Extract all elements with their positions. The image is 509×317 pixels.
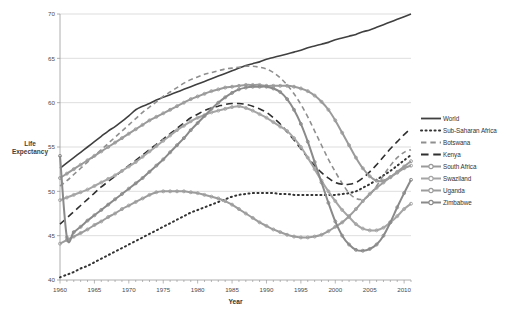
- legend-key-icon: [420, 125, 442, 136]
- x-axis-tick-label: 1980: [191, 286, 205, 293]
- series-line: [60, 155, 411, 277]
- legend-item-label: Swaziland: [442, 175, 471, 182]
- legend-key-icon: [420, 185, 442, 196]
- legend-item-label: Kenya: [442, 151, 461, 158]
- x-axis-tick-label: 2000: [328, 286, 342, 293]
- y-axis-tick-label: 40: [48, 276, 55, 283]
- legend-item-uganda[interactable]: Uganda: [420, 185, 509, 197]
- x-axis-tick-label: 1975: [156, 286, 170, 293]
- legend-item-kenya[interactable]: Kenya: [420, 148, 509, 160]
- legend-item-swaziland[interactable]: Swaziland: [420, 172, 509, 184]
- series-sub-saharan-africa: [60, 155, 411, 277]
- legend-key-icon: [420, 113, 442, 124]
- y-axis-tick-label: 70: [48, 10, 55, 17]
- x-axis-tick-label: 1970: [122, 286, 136, 293]
- legend-key-icon: [420, 137, 442, 148]
- legend-key-icon: [420, 173, 442, 184]
- x-axis-title: Year: [229, 298, 243, 305]
- legend-item-label: Uganda: [442, 187, 465, 194]
- y-axis-tick-label: 55: [48, 143, 55, 150]
- series-line: [60, 106, 411, 230]
- x-axis-tick-label: 2005: [363, 286, 377, 293]
- legend-item-botswana[interactable]: Botswana: [420, 136, 509, 148]
- legend-item-label: World: [442, 115, 459, 122]
- x-axis-tick-label: 1995: [294, 286, 308, 293]
- x-axis-tick-label: 1960: [53, 286, 67, 293]
- clipped-bottom-text: [95, 310, 495, 317]
- x-axis-tick-label: 1965: [88, 286, 102, 293]
- y-axis-tick-label: 45: [48, 232, 55, 239]
- x-axis-tick-label: 2010: [397, 286, 411, 293]
- y-axis-tick-label: 50: [48, 188, 55, 195]
- legend-item-world[interactable]: World: [420, 112, 509, 124]
- legend-item-south-africa[interactable]: South Africa: [420, 160, 509, 172]
- legend-item-label: Zimbabwe: [442, 199, 472, 206]
- x-axis-tick-label: 1990: [260, 286, 274, 293]
- series-line: [60, 85, 411, 181]
- legend-item-label: South Africa: [442, 163, 476, 170]
- legend-item-label: Botswana: [442, 139, 470, 146]
- legend-item-label: Sub-Saharan Africa: [442, 127, 497, 134]
- legend-item-sub-saharan-africa[interactable]: Sub-Saharan Africa: [420, 124, 509, 136]
- y-axis-tick-label: 60: [48, 99, 55, 106]
- series-swaziland: [59, 105, 413, 232]
- clipped-top-text: [18, 0, 488, 3]
- y-axis-tick-label: 65: [48, 55, 55, 62]
- legend-key-icon: [420, 197, 442, 208]
- series-south-africa: [59, 83, 413, 182]
- legend-key-icon: [420, 149, 442, 160]
- legend-key-icon: [420, 161, 442, 172]
- legend-item-zimbabwe[interactable]: Zimbabwe: [420, 197, 509, 209]
- chart-page: Life Expectancy 404550556065701960196519…: [0, 0, 509, 317]
- x-axis-tick-label: 1985: [225, 286, 239, 293]
- chart-legend: WorldSub-Saharan AfricaBotswanaKenyaSout…: [420, 112, 509, 209]
